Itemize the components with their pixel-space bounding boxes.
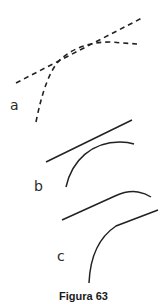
panel-b-drawing [46,120,134,187]
figure-caption: Figura 63 [0,290,167,302]
panel-a-straight-dashed-line [16,18,142,83]
panel-b-straight-line [46,120,132,162]
panel-a-drawing [16,18,142,122]
panel-b-curve [66,142,134,187]
panel-c-lower-line [89,210,158,283]
panel-b-label: b [34,179,43,193]
panel-c-label: c [57,249,65,263]
panel-c-drawing [62,192,158,283]
panel-a-curved-dashed-line [36,42,137,122]
panel-a-label: a [10,98,19,112]
panel-c-upper-line [62,192,151,220]
figure-canvas [0,0,167,304]
